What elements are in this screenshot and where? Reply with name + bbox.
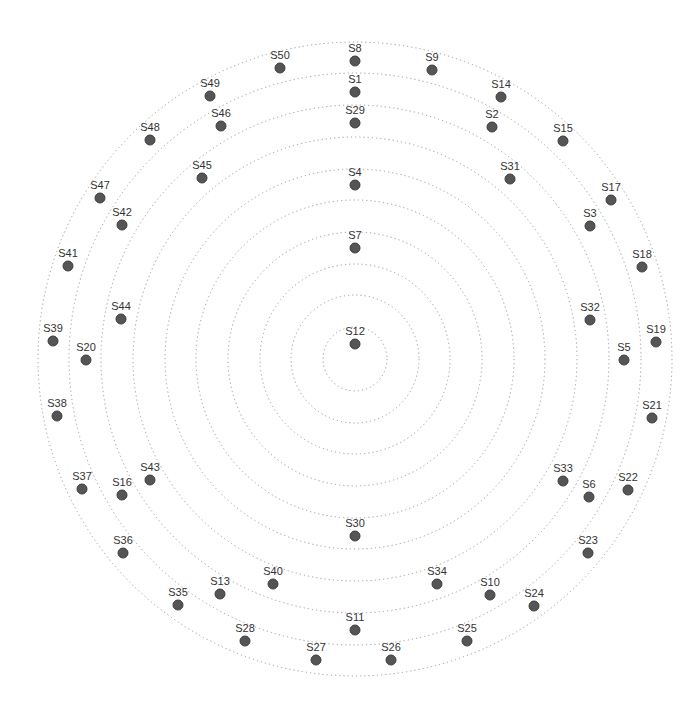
node-s30: S30 bbox=[345, 517, 365, 541]
ring-2 bbox=[291, 295, 419, 423]
node-label: S28 bbox=[235, 622, 255, 634]
node-dot-icon bbox=[647, 413, 657, 423]
node-s40: S40 bbox=[263, 565, 283, 589]
node-label: S19 bbox=[646, 323, 666, 335]
node-label: S45 bbox=[192, 159, 212, 171]
node-label: S22 bbox=[618, 471, 638, 483]
node-label: S16 bbox=[112, 476, 132, 488]
node-label: S41 bbox=[58, 247, 78, 259]
node-dot-icon bbox=[496, 92, 506, 102]
node-dot-icon bbox=[173, 600, 183, 610]
node-label: S25 bbox=[457, 622, 477, 634]
node-s38: S38 bbox=[47, 397, 67, 421]
node-dot-icon bbox=[350, 180, 360, 190]
node-s29: S29 bbox=[345, 104, 365, 128]
node-label: S10 bbox=[480, 576, 500, 588]
node-dot-icon bbox=[487, 122, 497, 132]
node-label: S48 bbox=[140, 121, 160, 133]
node-dot-icon bbox=[145, 475, 155, 485]
node-dot-icon bbox=[606, 195, 616, 205]
node-label: S13 bbox=[210, 575, 230, 587]
node-label: S47 bbox=[90, 179, 110, 191]
node-label: S12 bbox=[345, 325, 365, 337]
node-s18: S18 bbox=[632, 248, 652, 272]
node-label: S18 bbox=[632, 248, 652, 260]
node-label: S11 bbox=[346, 611, 365, 623]
node-dot-icon bbox=[116, 314, 126, 324]
node-s36: S36 bbox=[113, 534, 133, 558]
node-dot-icon bbox=[584, 492, 594, 502]
ring-6 bbox=[165, 169, 545, 549]
node-s39: S39 bbox=[43, 322, 63, 346]
node-s37: S37 bbox=[72, 470, 92, 494]
node-s9: S9 bbox=[425, 51, 438, 75]
ring-3 bbox=[260, 264, 450, 454]
node-dot-icon bbox=[350, 339, 360, 349]
node-dot-icon bbox=[558, 136, 568, 146]
node-s49: S49 bbox=[200, 77, 220, 101]
node-s25: S25 bbox=[457, 622, 477, 646]
node-s46: S46 bbox=[211, 107, 231, 131]
node-label: S29 bbox=[345, 104, 365, 116]
node-dot-icon bbox=[205, 91, 215, 101]
node-dot-icon bbox=[386, 655, 396, 665]
diagram-canvas: S1S2S3S4S5S6S7S8S9S10S11S12S13S14S15S16S… bbox=[0, 0, 700, 709]
node-dot-icon bbox=[117, 220, 127, 230]
node-s47: S47 bbox=[90, 179, 110, 203]
node-label: S2 bbox=[485, 108, 498, 120]
node-s21: S21 bbox=[642, 399, 662, 423]
node-dot-icon bbox=[558, 476, 568, 486]
node-label: S3 bbox=[583, 207, 596, 219]
node-dot-icon bbox=[623, 485, 633, 495]
node-dot-icon bbox=[350, 87, 360, 97]
node-label: S1 bbox=[348, 73, 361, 85]
node-s7: S7 bbox=[348, 229, 361, 253]
node-dot-icon bbox=[427, 65, 437, 75]
node-dot-icon bbox=[48, 336, 58, 346]
node-label: S21 bbox=[642, 399, 662, 411]
node-dot-icon bbox=[619, 355, 629, 365]
node-s20: S20 bbox=[76, 341, 96, 365]
node-dot-icon bbox=[52, 411, 62, 421]
node-label: S6 bbox=[582, 478, 595, 490]
node-s6: S6 bbox=[582, 478, 595, 502]
node-label: S33 bbox=[553, 462, 573, 474]
node-dot-icon bbox=[216, 121, 226, 131]
node-dot-icon bbox=[63, 261, 73, 271]
node-s48: S48 bbox=[140, 121, 160, 145]
node-label: S37 bbox=[72, 470, 92, 482]
node-label: S24 bbox=[524, 587, 544, 599]
node-label: S4 bbox=[348, 166, 361, 178]
node-s5: S5 bbox=[617, 341, 630, 365]
node-label: S43 bbox=[140, 461, 160, 473]
node-s27: S27 bbox=[306, 641, 326, 665]
node-label: S49 bbox=[200, 77, 220, 89]
node-dot-icon bbox=[215, 589, 225, 599]
node-s3: S3 bbox=[583, 207, 596, 231]
node-s50: S50 bbox=[270, 49, 290, 73]
node-label: S31 bbox=[500, 160, 520, 172]
node-s19: S19 bbox=[646, 323, 666, 347]
node-dot-icon bbox=[275, 63, 285, 73]
node-s10: S10 bbox=[480, 576, 500, 600]
node-s33: S33 bbox=[553, 462, 573, 486]
node-label: S32 bbox=[580, 301, 600, 313]
rings-group bbox=[38, 42, 672, 676]
node-dot-icon bbox=[651, 337, 661, 347]
node-label: S26 bbox=[381, 641, 401, 653]
node-dot-icon bbox=[95, 193, 105, 203]
node-s32: S32 bbox=[580, 301, 600, 325]
node-dot-icon bbox=[585, 221, 595, 231]
node-label: S20 bbox=[76, 341, 96, 353]
nodes-group: S1S2S3S4S5S6S7S8S9S10S11S12S13S14S15S16S… bbox=[43, 42, 666, 665]
node-label: S39 bbox=[43, 322, 63, 334]
node-label: S5 bbox=[617, 341, 630, 353]
node-dot-icon bbox=[240, 636, 250, 646]
node-s34: S34 bbox=[427, 565, 447, 589]
node-label: S23 bbox=[578, 534, 598, 546]
node-label: S34 bbox=[427, 565, 447, 577]
node-label: S7 bbox=[348, 229, 361, 241]
node-dot-icon bbox=[350, 625, 360, 635]
node-dot-icon bbox=[350, 56, 360, 66]
node-s2: S2 bbox=[485, 108, 498, 132]
